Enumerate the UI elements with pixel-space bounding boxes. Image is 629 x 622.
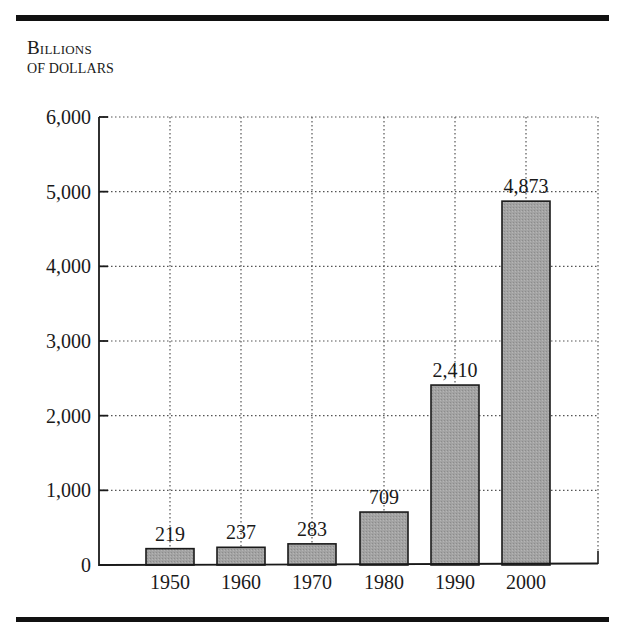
bars bbox=[146, 201, 550, 565]
value-label: 237 bbox=[226, 521, 256, 543]
value-label: 2,410 bbox=[433, 359, 478, 381]
y-tick-label: 5,000 bbox=[46, 181, 91, 203]
x-tick-label: 1950 bbox=[150, 571, 190, 593]
y-tick-label: 6,000 bbox=[46, 106, 91, 128]
value-label: 219 bbox=[155, 523, 185, 545]
bar-1950 bbox=[146, 549, 194, 565]
bottom-rule bbox=[16, 617, 609, 622]
bar-1980 bbox=[360, 512, 408, 565]
bar-1990 bbox=[431, 385, 479, 565]
y-tick-label: 1,000 bbox=[46, 479, 91, 501]
bar-1970 bbox=[288, 544, 336, 565]
bar-1960 bbox=[217, 547, 265, 565]
x-tick-label: 2000 bbox=[506, 571, 546, 593]
x-tick-label: 1990 bbox=[435, 571, 475, 593]
y-tick-label: 4,000 bbox=[46, 255, 91, 277]
bar-chart: 21919502371960283197070919802,41019904,8… bbox=[0, 0, 629, 622]
y-tick-label: 2,000 bbox=[46, 405, 91, 427]
x-tick-label: 1960 bbox=[221, 571, 261, 593]
x-tick-label: 1970 bbox=[292, 571, 332, 593]
value-label: 709 bbox=[369, 486, 399, 508]
value-label: 4,873 bbox=[504, 175, 549, 197]
x-tick-label: 1980 bbox=[364, 571, 404, 593]
y-tick-label: 0 bbox=[81, 554, 91, 576]
bar-2000 bbox=[502, 201, 550, 565]
value-label: 283 bbox=[297, 518, 327, 540]
y-tick-label: 3,000 bbox=[46, 330, 91, 352]
